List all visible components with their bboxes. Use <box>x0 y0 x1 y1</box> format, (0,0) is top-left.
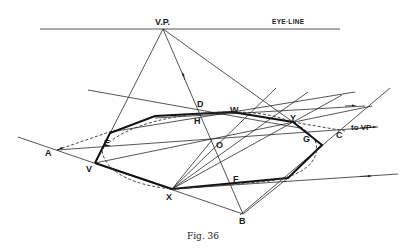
arrow-head-upper <box>345 106 354 107</box>
to-vp-label: to VP <box>351 123 372 132</box>
label-y: Y <box>290 113 296 123</box>
label-c: C <box>336 130 343 140</box>
eye-line-label: EYE·LINE <box>272 18 305 25</box>
label-o: O <box>216 140 223 150</box>
vp-label: V.P. <box>155 17 170 27</box>
figure-caption: Fig. 36 <box>187 231 219 241</box>
line-corner-b <box>243 178 288 214</box>
label-x: X <box>166 192 172 202</box>
label-d: D <box>197 99 204 109</box>
perspective-diagram: V.P. EYE·LINE A V E D H W O Y G C F X B … <box>0 0 409 250</box>
arrow-head-bottom <box>360 176 370 177</box>
label-b: B <box>239 216 246 226</box>
label-w: W <box>230 105 239 115</box>
label-g: G <box>303 134 310 144</box>
label-a: A <box>45 148 52 158</box>
label-f: F <box>233 174 239 184</box>
label-v: V <box>86 164 92 174</box>
label-h: H <box>194 116 201 126</box>
label-e: E <box>104 138 110 148</box>
vp-line-to-y <box>163 29 293 122</box>
arrow-mark <box>183 74 185 80</box>
line-x-upper1 <box>172 88 276 189</box>
